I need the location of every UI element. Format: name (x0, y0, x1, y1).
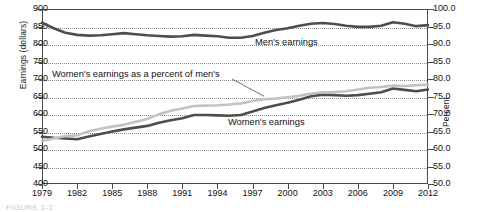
series-label-percent: Women's earnings as a percent of men's (52, 69, 220, 79)
figure-caption-clipped: FIGURE 1-1 (6, 203, 53, 212)
chart-container: Earnings (dollars) Percent 9008508007507… (0, 0, 481, 212)
series-line-women (42, 88, 428, 139)
series-line-men (42, 22, 428, 37)
leader-line-percent-label (232, 79, 264, 96)
series-label-women: Women's earnings (228, 117, 305, 127)
series-label-men: Men's earnings (255, 37, 318, 47)
data-lines (0, 0, 481, 212)
